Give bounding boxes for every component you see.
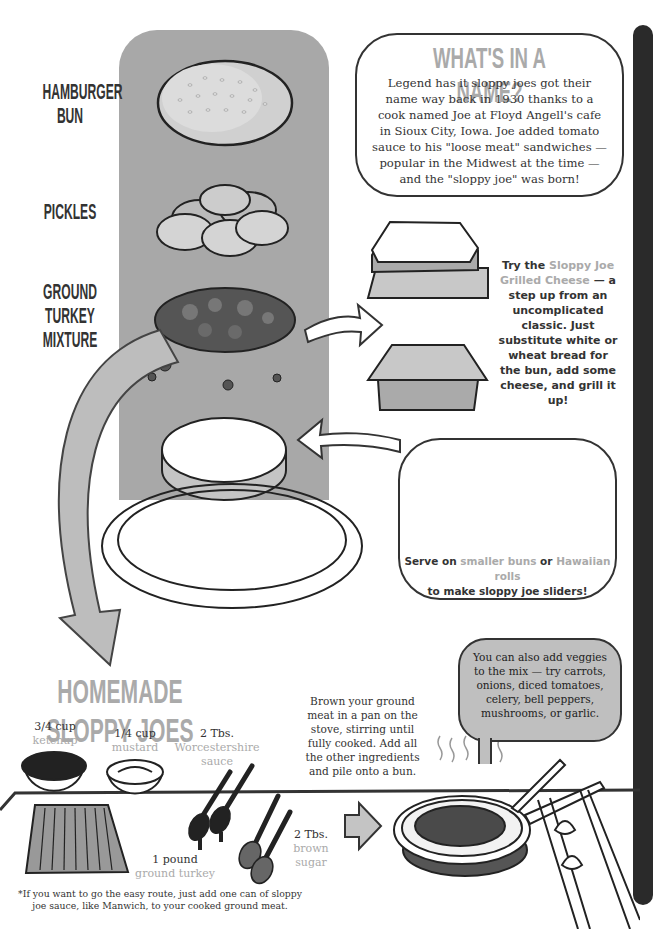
veggie-tip-pointer: [478, 738, 492, 764]
veggie-tip-box: You can also add veggies to the mix — tr…: [458, 638, 622, 742]
ingredient-worcestershire: 2 Tbs. Worcestershire sauce: [172, 727, 262, 769]
sliders-tip-box: Serve on smaller buns or Hawaiian rolls …: [398, 438, 617, 600]
meat-mixture-icon: [148, 288, 295, 390]
sliders-tip-text: Serve on smaller buns or Hawaiian rolls …: [400, 554, 615, 599]
pickles-icon: [157, 185, 288, 256]
recipe-instructions: Brown your ground meat in a pan on the s…: [305, 694, 420, 778]
ingredient-mustard: 1/4 cup mustard: [100, 727, 170, 755]
grilled-cheese-icon: [368, 222, 488, 410]
curved-arrow-down-icon: [59, 330, 178, 665]
stove-icon: [538, 790, 640, 929]
whats-in-a-name-box: WHAT'S IN A NAME? Legend has it sloppy j…: [355, 33, 624, 197]
bottom-bun-icon: [162, 418, 286, 500]
veggie-tip-text: You can also add veggies to the mix — tr…: [468, 650, 612, 720]
worcestershire-spoons-icon: [185, 766, 252, 850]
arrow-left-icon: [298, 420, 400, 458]
brown-sugar-spoons-icon: [235, 796, 290, 887]
plate-icon: [102, 484, 362, 608]
mustard-bowl-icon: [107, 760, 163, 793]
ketchup-bowl-icon: [22, 752, 86, 791]
ground-turkey-icon: [26, 805, 128, 873]
ingredient-brown-sugar: 2 Tbs. brown sugar: [286, 828, 336, 870]
grilled-cheese-tip: Try the Sloppy Joe Grilled Cheese — a st…: [497, 258, 619, 408]
recipe-footnote: *If you want to go the easy route, just …: [10, 888, 310, 912]
whats-in-a-name-body: Legend has it sloppy joes got their name…: [372, 75, 607, 187]
ingredient-ground-turkey: 1 pound ground turkey: [130, 853, 220, 881]
ingredient-ketchup: 3/4 cup ketchup: [20, 720, 90, 748]
next-step-arrow-icon: [345, 803, 381, 849]
arrow-right-icon: [305, 305, 382, 345]
hamburger-bun-icon: [158, 61, 292, 145]
